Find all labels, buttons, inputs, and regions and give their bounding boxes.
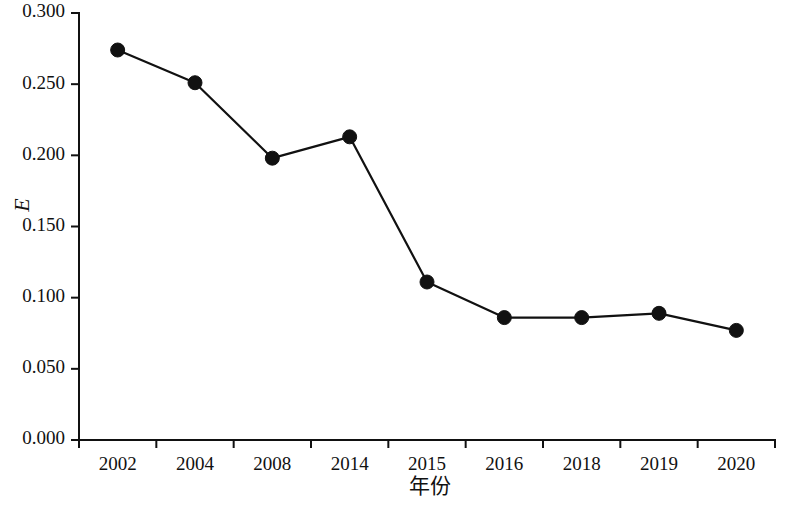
x-tick-label: 2015 (408, 453, 446, 474)
y-tick-label: 0.200 (22, 143, 65, 164)
x-tick-label: 2008 (253, 453, 291, 474)
data-point-marker (111, 43, 125, 57)
chart-background (0, 0, 786, 506)
data-point-marker (420, 275, 434, 289)
x-tick-label: 2014 (331, 453, 370, 474)
x-tick-label: 2004 (176, 453, 215, 474)
data-point-marker (265, 151, 279, 165)
x-axis-title: 年份 (409, 474, 451, 498)
y-tick-label: 0.050 (22, 356, 65, 377)
x-tick-label: 2020 (717, 453, 755, 474)
x-tick-label: 2019 (640, 453, 678, 474)
x-tick-label: 2018 (563, 453, 601, 474)
x-tick-label: 2002 (99, 453, 137, 474)
y-tick-label: 0.000 (22, 427, 65, 448)
data-point-marker (188, 76, 202, 90)
x-tick-label: 2016 (485, 453, 523, 474)
data-point-marker (575, 311, 589, 325)
y-tick-label: 0.300 (22, 0, 65, 21)
data-point-marker (652, 306, 666, 320)
data-point-marker (497, 311, 511, 325)
line-chart-figure: 0.0000.0500.1000.1500.2000.2500.300 2002… (0, 0, 786, 506)
y-tick-label: 0.150 (22, 214, 65, 235)
y-axis-title: E (9, 198, 34, 213)
data-point-marker (729, 323, 743, 337)
y-tick-label: 0.250 (22, 72, 65, 93)
data-point-marker (343, 130, 357, 144)
chart-canvas: 0.0000.0500.1000.1500.2000.2500.300 2002… (0, 0, 786, 506)
y-tick-label: 0.100 (22, 285, 65, 306)
